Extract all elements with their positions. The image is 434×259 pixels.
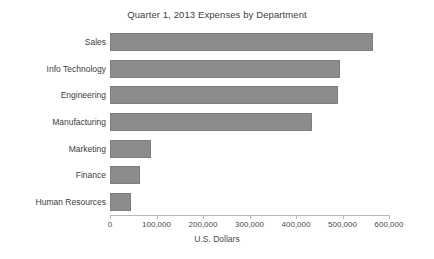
x-tick-label: 0: [108, 220, 112, 229]
x-tick-mark: [203, 215, 204, 219]
bar-engineering: [110, 86, 338, 104]
x-tick-label: 100,000: [142, 220, 171, 229]
category-label-manufacturing: Manufacturing: [2, 117, 106, 127]
category-label-info-technology: Info Technology: [2, 64, 106, 74]
x-tick-mark: [110, 215, 111, 219]
chart-title: Quarter 1, 2013 Expenses by Department: [0, 9, 434, 20]
category-label-human-resources: Human Resources: [2, 197, 106, 207]
y-axis-category-labels: SalesInfo TechnologyEngineeringManufactu…: [0, 29, 106, 215]
category-label-sales: Sales: [2, 37, 106, 47]
bar-info-technology: [110, 60, 340, 78]
plot-area: [110, 29, 389, 215]
x-tick-mark: [343, 215, 344, 219]
category-label-finance: Finance: [2, 170, 106, 180]
x-tick-label: 400,000: [282, 220, 311, 229]
x-tick-label: 600,000: [375, 220, 404, 229]
bar-sales: [110, 33, 373, 51]
bar-marketing: [110, 140, 151, 158]
x-tick-label: 300,000: [235, 220, 264, 229]
category-label-marketing: Marketing: [2, 144, 106, 154]
x-tick-label: 200,000: [189, 220, 218, 229]
bar-human-resources: [110, 193, 131, 211]
x-tick-mark: [389, 215, 390, 219]
x-tick-mark: [157, 215, 158, 219]
bar-manufacturing: [110, 113, 312, 131]
category-label-engineering: Engineering: [2, 90, 106, 100]
x-tick-mark: [296, 215, 297, 219]
x-tick-label: 500,000: [328, 220, 357, 229]
bar-finance: [110, 166, 140, 184]
x-tick-mark: [250, 215, 251, 219]
x-axis-title: U.S. Dollars: [0, 234, 434, 244]
bar-chart-figure: Quarter 1, 2013 Expenses by Department S…: [0, 0, 434, 259]
